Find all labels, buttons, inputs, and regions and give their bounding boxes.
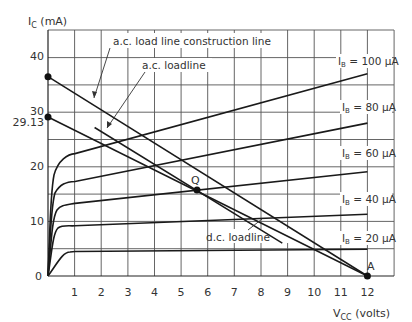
ac-loadline-label: a.c. loadline xyxy=(142,59,206,71)
svg-text:7: 7 xyxy=(231,286,238,299)
svg-text:2: 2 xyxy=(98,286,105,299)
y-tick-labels: 0 10 20 30 40 29.13 xyxy=(13,50,45,283)
ac-loadline xyxy=(95,128,283,244)
construction-line-start-point xyxy=(45,73,52,80)
annotation-arrows xyxy=(92,48,262,230)
x-tick-labels: 1 2 3 4 5 6 7 8 9 10 11 12 xyxy=(71,286,374,299)
svg-text:10: 10 xyxy=(30,215,44,228)
svg-text:10: 10 xyxy=(307,286,321,299)
a-point xyxy=(364,273,371,280)
construction-line-label: a.c. load line construction line xyxy=(113,35,271,47)
svg-text:5: 5 xyxy=(178,286,185,299)
svg-text:8: 8 xyxy=(258,286,265,299)
a-point-label: A xyxy=(367,260,375,273)
ib-80-label: IB = 80 µA xyxy=(342,101,397,115)
svg-text:0: 0 xyxy=(35,270,42,283)
y-axis-title: IC (mA) xyxy=(28,15,67,30)
ib-60-label: IB = 60 µA xyxy=(342,147,397,161)
dc-loadline-start-point xyxy=(45,114,52,121)
svg-text:6: 6 xyxy=(204,286,211,299)
ib-40-label: IB = 40 µA xyxy=(342,193,397,207)
svg-text:11: 11 xyxy=(334,286,348,299)
dc-loadline-label: d.c. loadline xyxy=(206,231,270,243)
svg-text:9: 9 xyxy=(284,286,291,299)
ib-20-label: IB = 20 µA xyxy=(342,232,397,246)
svg-text:3: 3 xyxy=(124,286,131,299)
svg-text:12: 12 xyxy=(360,286,374,299)
x-axis-title: VCC (volts) xyxy=(333,307,390,322)
q-point-label: Q xyxy=(191,174,200,187)
ib-100-label: IB = 100 µA xyxy=(338,55,399,69)
svg-text:1: 1 xyxy=(71,286,78,299)
q-point xyxy=(194,187,201,194)
svg-text:40: 40 xyxy=(30,50,44,63)
y-tick-29-13: 29.13 xyxy=(13,116,45,129)
svg-text:20: 20 xyxy=(30,160,44,173)
svg-text:4: 4 xyxy=(151,286,158,299)
transistor-characteristics-chart: 1 2 3 4 5 6 7 8 9 10 11 12 0 10 20 30 40… xyxy=(0,0,412,322)
